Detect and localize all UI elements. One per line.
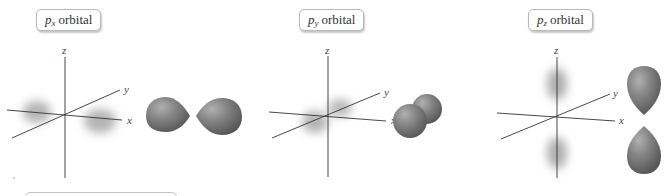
py-axes: [269, 56, 386, 177]
z-axis-label: z: [553, 44, 559, 56]
y-axis-label: y: [383, 86, 389, 98]
py-panel: z y x: [269, 44, 442, 177]
px-electron-cloud: [23, 101, 116, 133]
py-lobes: [393, 94, 442, 138]
px-panel: z y x: [7, 44, 242, 178]
y-axis-label: y: [123, 83, 129, 95]
orbital-diagram: z y x z y x: [0, 0, 666, 196]
x-axis-label: x: [618, 114, 624, 126]
z-axis-label: z: [61, 44, 67, 56]
z-axis-label: z: [324, 44, 330, 56]
pz-panel: z y x: [497, 44, 661, 178]
py-electron-cloud: [302, 99, 352, 133]
pz-lobes: [627, 66, 661, 174]
stray-dot: [13, 177, 15, 179]
y-axis-label: y: [612, 87, 618, 99]
bottom-label-box: [25, 192, 177, 196]
px-lobes: [146, 97, 242, 135]
x-axis-label: x: [126, 114, 132, 126]
